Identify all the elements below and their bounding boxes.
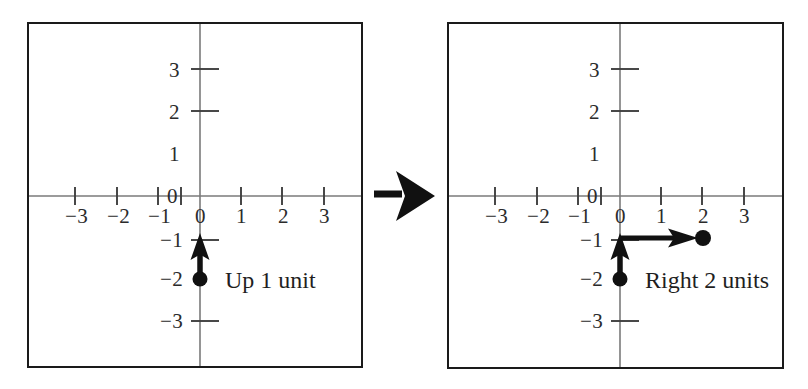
- y-tick-label-2: 2: [589, 102, 600, 123]
- x-tick-label-1: 1: [236, 206, 247, 227]
- end-point: [695, 230, 711, 246]
- x-tick-label--1: −1: [148, 206, 171, 227]
- x-tick-label--2: −2: [107, 206, 130, 227]
- y-tick-label--2: −2: [160, 269, 183, 290]
- coordinate-plane-after: −3 −2 −1 0 1 2 3 3 2 1 0 −1 −2 −3 Right …: [447, 22, 784, 369]
- y-tick-label-3: 3: [169, 60, 180, 81]
- x-tick-label--1: −1: [568, 206, 591, 227]
- y-tick-label--3: −3: [160, 311, 183, 332]
- right-2-units-label: Right 2 units: [645, 268, 769, 292]
- coordinate-plane-before: −3 −2 −1 0 1 2 3 3 2 1 0 −1 −2 −3 Up 1 u…: [27, 22, 363, 368]
- y-tick-label--3: −3: [580, 311, 603, 332]
- start-point: [193, 272, 208, 287]
- right-2-units-arrow: [620, 229, 698, 248]
- x-tick-label-1: 1: [656, 206, 667, 227]
- y-tick-label-0: 0: [587, 186, 598, 207]
- start-point: [613, 272, 628, 287]
- y-tick-label-2: 2: [169, 102, 180, 123]
- translation-figure: −3 −2 −1 0 1 2 3 3 2 1 0 −1 −2 −3 Up 1 u…: [0, 0, 808, 389]
- x-tick-label-3: 3: [739, 206, 750, 227]
- x-tick-label-2: 2: [698, 206, 709, 227]
- x-tick-label-3: 3: [319, 206, 330, 227]
- y-tick-label--2: −2: [580, 269, 603, 290]
- x-tick-label-2: 2: [278, 206, 289, 227]
- x-tick-label--2: −2: [527, 206, 550, 227]
- y-tick-label--1: −1: [160, 230, 183, 251]
- right-arrow-icon: [372, 168, 438, 224]
- up-1-unit-label: Up 1 unit: [225, 268, 316, 292]
- y-tick-label-1: 1: [169, 144, 180, 165]
- x-tick-label-0: 0: [195, 206, 206, 227]
- x-tick-label--3: −3: [65, 206, 88, 227]
- y-tick-label-0: 0: [167, 186, 178, 207]
- y-tick-label--1: −1: [580, 230, 603, 251]
- y-tick-label-1: 1: [589, 144, 600, 165]
- y-tick-label-3: 3: [589, 60, 600, 81]
- coordinate-plane-after-graphics: [449, 24, 782, 367]
- x-tick-label--3: −3: [485, 206, 508, 227]
- x-tick-label-0: 0: [615, 206, 626, 227]
- coordinate-plane-before-graphics: [29, 24, 361, 366]
